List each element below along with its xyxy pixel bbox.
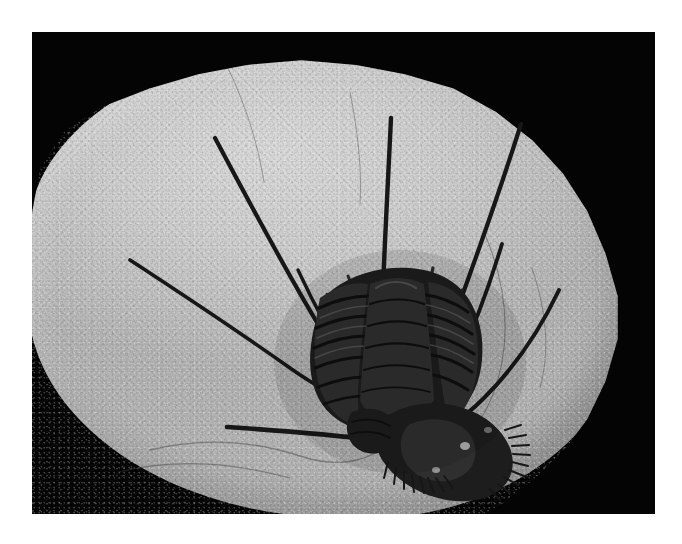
fossil-shadow (274, 250, 526, 474)
photograph (32, 32, 655, 514)
photo-page (0, 0, 682, 544)
trilobite-fossil (32, 32, 655, 514)
